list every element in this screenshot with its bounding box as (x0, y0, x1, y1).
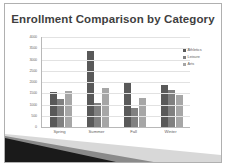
y-axis-tick-label: 3000 (29, 58, 37, 62)
x-axis-category-label: Spring (41, 129, 78, 134)
y-axis-tick-label: 0 (35, 125, 37, 129)
legend-item: Leisure (183, 55, 202, 59)
legend-item: Arts (183, 62, 202, 66)
y-axis-tick-label: 2000 (29, 80, 37, 84)
gridline (42, 60, 190, 61)
bar (65, 91, 72, 127)
bar (161, 85, 168, 127)
slide-canvas: Enrollment Comparison by Category 400035… (4, 3, 222, 163)
bar (139, 98, 146, 127)
bar (168, 90, 175, 127)
y-axis-tick-label: 3500 (29, 46, 37, 50)
y-axis-tick-label: 4000 (29, 35, 37, 39)
x-axis-category-label: Winter (152, 129, 189, 134)
chart-legend: AthleticsLeisureArts (183, 48, 202, 66)
legend-label: Athletics (188, 48, 202, 52)
gridline (42, 37, 190, 38)
y-axis-tick-label: 500 (31, 114, 37, 118)
legend-swatch-icon (183, 49, 186, 52)
gridline (42, 48, 190, 49)
x-axis-category-label: Summer (78, 129, 115, 134)
bar (57, 99, 64, 127)
x-axis-category-label: Fall (115, 129, 152, 134)
chart-title: Enrollment Comparison by Category (5, 13, 221, 25)
gridline (42, 105, 190, 106)
legend-label: Arts (188, 62, 195, 66)
bar (131, 108, 138, 127)
y-axis-tick-label: 2500 (29, 69, 37, 73)
legend-swatch-icon (183, 56, 186, 59)
legend-swatch-icon (183, 63, 186, 66)
bar (176, 95, 183, 127)
legend-item: Athletics (183, 48, 202, 52)
gridline (42, 116, 190, 117)
legend-label: Leisure (188, 55, 200, 59)
y-axis: 40003500300025002000150010005000 (17, 37, 39, 127)
y-axis-tick-label: 1500 (29, 91, 37, 95)
plot-area (41, 37, 190, 128)
gridline (42, 93, 190, 94)
bar (50, 92, 57, 127)
x-axis-labels: SpringSummerFallWinter (41, 129, 189, 134)
gridline (42, 82, 190, 83)
gridline (42, 71, 190, 72)
y-axis-tick-label: 1000 (29, 103, 37, 107)
